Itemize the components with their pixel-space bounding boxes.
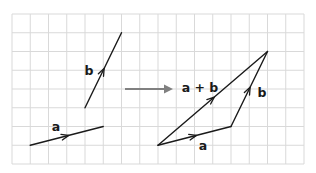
vector-label-a: a <box>52 119 60 134</box>
vector-label-b: b <box>258 85 267 100</box>
vector-label-b: b <box>85 63 94 78</box>
arrow-right-icon <box>164 85 173 94</box>
transform-arrow <box>125 85 173 94</box>
vector-label-a: a <box>199 138 207 153</box>
diagram-canvas: ab aba + b <box>0 0 316 173</box>
vector-label-a-plus-b: a + b <box>182 80 219 95</box>
vector-addition-diagram: ab aba + b <box>0 0 316 173</box>
